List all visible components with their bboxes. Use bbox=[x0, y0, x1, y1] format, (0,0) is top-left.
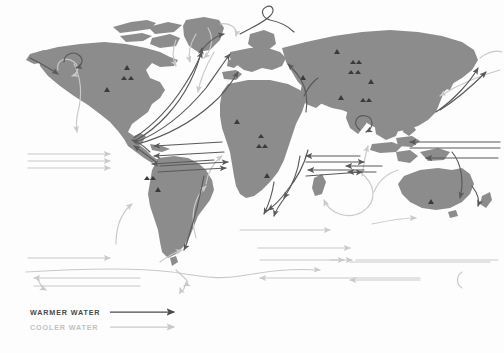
ocean-currents-figure: WARMER WATER COOLER WATER bbox=[0, 0, 504, 353]
legend-label-cooler-water: COOLER WATER bbox=[30, 323, 98, 332]
legend-label-warmer-water: WARMER WATER bbox=[30, 308, 100, 317]
world-map-svg: WARMER WATER COOLER WATER bbox=[0, 0, 504, 353]
